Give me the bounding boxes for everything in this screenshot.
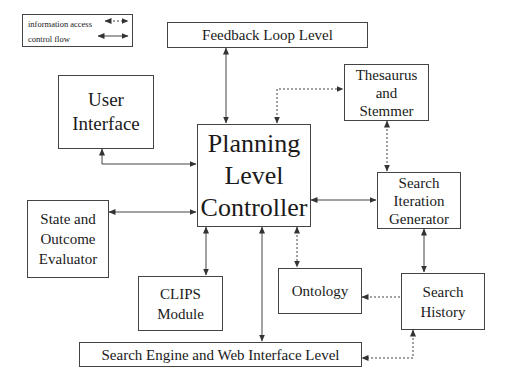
legend: information access control flow <box>22 14 133 47</box>
node-label: Search Engine and Web Interface Level <box>102 345 340 365</box>
node-feedback-loop-level: Feedback Loop Level <box>167 22 368 48</box>
node-search-history: Search History <box>401 273 485 330</box>
node-label: CLIPS Module <box>157 284 204 324</box>
edge-history-engine <box>362 330 413 358</box>
node-thesaurus-stemmer: Thesaurus and Stemmer <box>344 64 429 121</box>
node-label: Search Iteration Generator <box>389 174 449 228</box>
node-label: Planning Level Controller <box>201 128 308 224</box>
node-label: Search History <box>421 282 466 322</box>
node-search-engine-web-interface: Search Engine and Web Interface Level <box>79 342 362 367</box>
edge-planning-thesaurus <box>277 89 343 123</box>
node-label: Feedback Loop Level <box>202 25 333 45</box>
node-state-outcome-evaluator: State and Outcome Evaluator <box>27 200 109 278</box>
node-label: Ontology <box>292 281 349 301</box>
node-user-interface: User Interface <box>58 75 154 149</box>
node-search-iteration-generator: Search Iteration Generator <box>377 172 461 229</box>
legend-item-control-flow: control flow <box>28 34 132 45</box>
legend-label: control flow <box>28 34 70 44</box>
edge-ui-planning <box>102 149 196 164</box>
node-planning-level-controller: Planning Level Controller <box>197 124 311 227</box>
node-label: Thesaurus and Stemmer <box>356 66 418 120</box>
node-label: State and Outcome Evaluator <box>39 209 97 269</box>
node-label: User Interface <box>72 88 140 136</box>
legend-item-information-access: information access <box>28 19 132 30</box>
legend-label: information access <box>28 19 92 29</box>
node-ontology: Ontology <box>278 268 362 314</box>
node-clips-module: CLIPS Module <box>138 276 223 331</box>
